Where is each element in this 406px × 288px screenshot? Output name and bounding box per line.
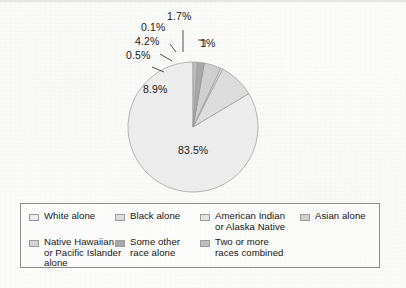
legend-item-asian-alone[interactable]: Asian alone	[300, 211, 366, 222]
legend-item-black-alone[interactable]: Black alone	[115, 211, 180, 222]
legend-item-some-other-race[interactable]: Some otherrace alone	[115, 237, 180, 258]
slice-label-american-indian: 0.5%	[126, 50, 150, 61]
legend-swatch-native-hawaiian	[29, 240, 39, 247]
legend-swatch-asian-alone	[300, 214, 310, 221]
legend-label-some-other-race: Some otherrace alone	[130, 237, 180, 258]
legend-swatch-black-alone	[115, 214, 125, 221]
legend-swatch-american-indian	[200, 214, 210, 221]
legend-label-native-hawaiian: Native Hawaiianor Pacific Islanderalone	[44, 237, 121, 269]
legend-swatch-some-other-race	[115, 240, 125, 247]
slice-label-asian: 4.2%	[135, 36, 159, 47]
legend-item-american-indian[interactable]: American Indianor Alaska Native	[200, 211, 285, 232]
slice-label-black: 8.9%	[143, 84, 167, 95]
slice-label-native-hawaiian: 0.1%	[141, 22, 165, 33]
legend-item-white-alone[interactable]: White alone	[29, 211, 95, 222]
chart-page: 0.1% 1.7% 4.2% 1% 0.5% 8.9% 83.5% White …	[0, 0, 406, 288]
legend-label-asian-alone: Asian alone	[315, 211, 366, 222]
legend-label-black-alone: Black alone	[130, 211, 180, 222]
slice-label-two-or-more: 1%	[200, 38, 215, 49]
pie-chart-area: 0.1% 1.7% 4.2% 1% 0.5% 8.9% 83.5%	[0, 0, 406, 200]
slice-label-some-other-race: 1.7%	[167, 11, 191, 22]
chart-legend: White alone Black alone American Indiano…	[20, 203, 380, 268]
legend-swatch-white-alone	[29, 214, 39, 221]
legend-item-native-hawaiian[interactable]: Native Hawaiianor Pacific Islanderalone	[29, 237, 121, 269]
legend-item-two-or-more-races[interactable]: Two or moreraces combined	[200, 237, 283, 258]
legend-label-two-or-more-races: Two or moreraces combined	[215, 237, 283, 258]
pie-chart-svg	[0, 0, 406, 200]
legend-label-american-indian: American Indianor Alaska Native	[215, 211, 285, 232]
slice-label-white: 83.5%	[178, 145, 208, 156]
pie-slices	[128, 62, 258, 192]
legend-swatch-two-or-more-races	[200, 240, 210, 247]
legend-label-white-alone: White alone	[44, 211, 95, 222]
